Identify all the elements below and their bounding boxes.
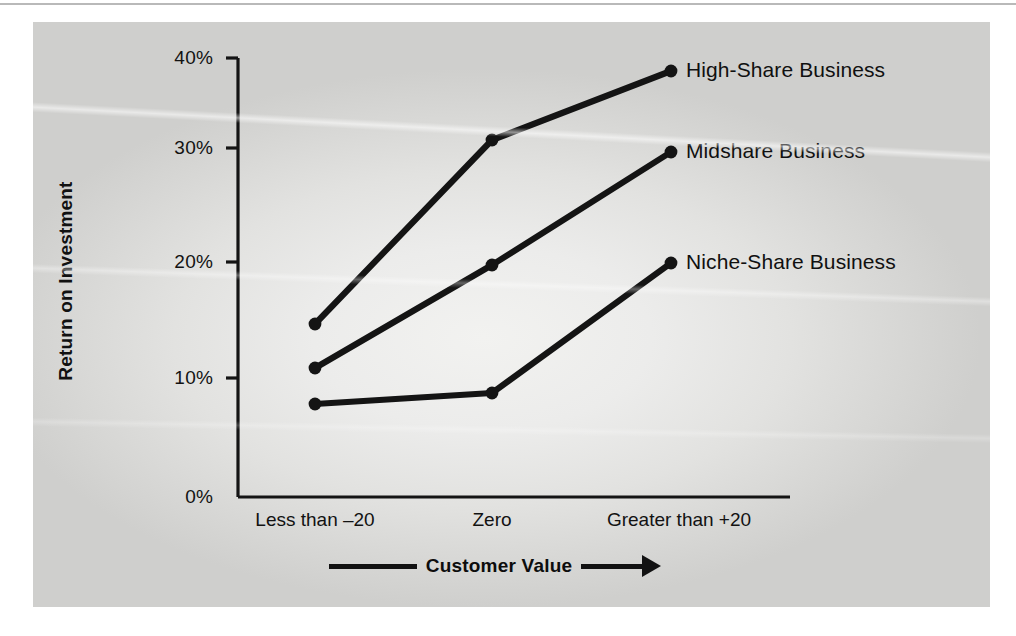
chart-plot-area: Return on Investment 40% 30% 20% 10% 0% … [33,22,990,607]
marker-high-share-1 [309,318,322,331]
marker-niche-share-1 [309,398,322,411]
marker-niche-share-3 [665,257,678,270]
series-line-high-share [315,71,671,324]
figure-page: Return on Investment 40% 30% 20% 10% 0% … [0,0,1016,636]
marker-midshare-3 [665,146,678,159]
marker-high-share-2 [486,134,499,147]
x-tick-label-zero: Zero [472,509,511,531]
axis-note-rule-right [581,564,643,569]
marker-high-share-3 [665,65,678,78]
arrow-right-icon [642,555,661,577]
y-tick-label-20: 20% [155,251,213,273]
y-tick-label-40: 40% [155,47,213,69]
x-tick-label-greater-than-plus-20: Greater than +20 [607,509,751,531]
y-axis-title: Return on Investment [55,181,77,381]
axis-note-label: Customer Value [417,555,581,577]
x-axis-direction-note: Customer Value [315,549,675,583]
series-label-niche-share: Niche-Share Business [686,250,896,274]
y-tick-label-0: 0% [155,486,213,508]
series-label-midshare: Midshare Business [686,139,865,163]
chart-panel: Return on Investment 40% 30% 20% 10% 0% … [33,22,990,607]
marker-niche-share-2 [486,387,499,400]
page-top-rule [0,3,1016,5]
y-tick-label-30: 30% [155,137,213,159]
marker-midshare-2 [486,259,499,272]
marker-midshare-1 [309,362,322,375]
series-label-high-share: High-Share Business [686,58,885,82]
y-tick-label-10: 10% [155,367,213,389]
axis-note-rule-left [329,564,417,569]
x-tick-label-less-than-minus-20: Less than –20 [255,509,374,531]
